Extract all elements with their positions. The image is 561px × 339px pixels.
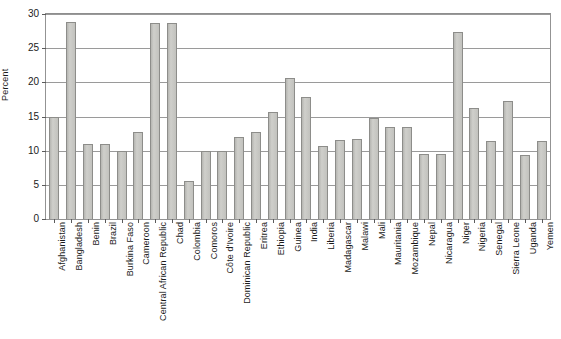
y-tick-mark — [42, 14, 46, 15]
bar — [537, 141, 547, 219]
bar — [335, 140, 345, 219]
bar — [520, 155, 530, 219]
x-tick-label: Benin — [91, 222, 101, 246]
bar — [234, 137, 244, 219]
bar — [469, 108, 479, 219]
x-tick-label: Chad — [175, 222, 185, 244]
x-axis-tick-labels: AfghanistanBangladeshBeninBrazilBurkina … — [45, 222, 551, 339]
bar — [301, 97, 311, 219]
x-tick-label: Côte d'Ivoire — [225, 222, 235, 274]
x-tick-label: Sierra Leone — [511, 222, 521, 275]
x-tick-label: Guinea — [293, 222, 303, 252]
bar — [318, 146, 328, 219]
x-tick-label: Mozambique — [410, 222, 420, 275]
y-tick-mark — [42, 82, 46, 83]
bar — [251, 132, 261, 219]
y-tick-mark — [42, 117, 46, 118]
y-tick-label: 30 — [20, 9, 39, 19]
y-tick-label: 15 — [20, 112, 39, 122]
x-tick-label: Niger — [461, 222, 471, 244]
bar — [453, 32, 463, 219]
x-tick-label: Eritrea — [259, 222, 269, 249]
bar — [117, 151, 127, 219]
y-tick-label: 5 — [20, 180, 39, 190]
y-tick-label: 20 — [20, 77, 39, 87]
x-tick-label: Cameroon — [141, 222, 151, 265]
x-tick-label: Burkina Faso — [125, 222, 135, 276]
bar-chart: Percent 051015202530 AfghanistanBanglade… — [0, 0, 561, 339]
bar — [217, 151, 227, 219]
x-tick-label: Madagascar — [343, 222, 353, 273]
plot-area — [45, 13, 551, 220]
x-tick-label: Mauritania — [393, 222, 403, 265]
y-tick-mark — [42, 219, 46, 220]
bar — [402, 127, 412, 219]
y-tick-label: 25 — [20, 43, 39, 53]
y-tick-mark — [42, 48, 46, 49]
x-tick-label: Nicaragua — [444, 222, 454, 264]
bar — [503, 101, 513, 219]
x-tick-label: Dominican Republic — [242, 222, 252, 304]
x-tick-label: Nepal — [427, 222, 437, 246]
x-tick-label: Nigeria — [477, 222, 487, 251]
bar — [436, 154, 446, 219]
y-axis-title: Percent — [0, 21, 16, 101]
plot-inner — [46, 14, 550, 219]
bar — [201, 151, 211, 219]
bar — [268, 112, 278, 219]
gridline — [46, 48, 550, 49]
bar — [83, 144, 93, 219]
y-tick-label: 10 — [20, 146, 39, 156]
x-tick-label: Bangladesh — [74, 222, 84, 271]
y-axis-tick-labels: 051015202530 — [20, 0, 39, 339]
x-tick-label: Central African Republic — [158, 222, 168, 321]
gridline — [46, 82, 550, 83]
y-tick-label: 0 — [20, 214, 39, 224]
bar — [100, 144, 110, 219]
x-tick-label: Malawi — [360, 222, 370, 251]
bar — [167, 23, 177, 219]
x-tick-label: Brazil — [108, 222, 118, 245]
bar — [369, 118, 379, 219]
bar — [150, 23, 160, 219]
bar — [486, 141, 496, 219]
x-tick-label: Uganda — [528, 222, 538, 254]
bar — [133, 132, 143, 219]
bar — [49, 117, 59, 219]
bar — [352, 139, 362, 219]
x-tick-label: Colombia — [192, 222, 202, 261]
x-tick-label: Ethiopia — [276, 222, 286, 255]
bar — [385, 127, 395, 219]
x-tick-label: Comoros — [209, 222, 219, 259]
y-tick-mark — [42, 185, 46, 186]
x-tick-label: Afghanistan — [57, 222, 67, 271]
bar — [285, 78, 295, 219]
x-tick-label: Mali — [377, 222, 387, 239]
x-tick-label: Senegal — [494, 222, 504, 256]
bar — [66, 22, 76, 219]
bar — [184, 181, 194, 219]
x-tick-label: Yemen — [545, 222, 555, 250]
gridline — [46, 14, 550, 15]
x-tick-label: India — [309, 222, 319, 242]
x-tick-label: Liberia — [326, 222, 336, 250]
bar — [419, 154, 429, 219]
y-tick-mark — [42, 151, 46, 152]
